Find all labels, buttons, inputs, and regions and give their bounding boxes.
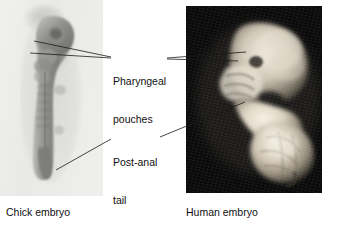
human-embryo-photo bbox=[186, 6, 322, 193]
callout-pharyngeal-line1: Pharyngeal bbox=[113, 75, 166, 88]
callout-pharyngeal-line2: pouches bbox=[113, 113, 166, 126]
caption-human-embryo: Human embryo bbox=[186, 206, 258, 219]
human-embryo-specimen bbox=[186, 6, 322, 193]
callout-postanal-line2: tail bbox=[113, 194, 157, 207]
chick-embryo-specimen bbox=[20, 8, 82, 186]
callout-post-anal-tail: Post-anal tail bbox=[113, 131, 157, 227]
embryo-comparison-figure: Pharyngeal pouches Post-anal tail Chick … bbox=[0, 0, 342, 227]
chick-embryo-photo bbox=[0, 0, 103, 196]
callout-postanal-line1: Post-anal bbox=[113, 156, 157, 169]
caption-chick-embryo: Chick embryo bbox=[6, 206, 70, 219]
